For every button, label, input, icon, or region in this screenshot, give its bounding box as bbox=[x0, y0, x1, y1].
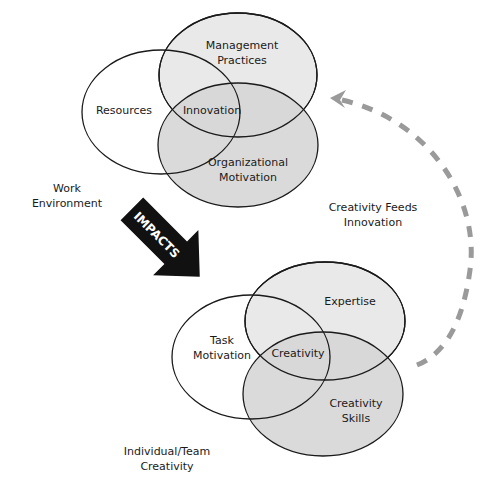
creativity-feeds-text: Creativity Feeds bbox=[329, 200, 418, 215]
innovation-center-label: Innovation bbox=[183, 103, 241, 118]
innovation-text: Innovation bbox=[329, 215, 418, 230]
practices-text: Practices bbox=[206, 53, 278, 68]
organizational-text: Organizational bbox=[208, 155, 288, 170]
environment-text: Environment bbox=[32, 196, 102, 211]
creativity-skills-text-1: Creativity bbox=[329, 396, 382, 411]
management-text: Management bbox=[206, 38, 278, 53]
motivation-text: Motivation bbox=[208, 170, 288, 185]
creativity-feeds-innovation-label: Creativity Feeds Innovation bbox=[329, 200, 418, 230]
resources-text: Resources bbox=[96, 103, 152, 118]
creativity-skills-label: Creativity Skills bbox=[329, 396, 382, 426]
task-text: Task bbox=[193, 333, 251, 348]
diagram-canvas: IMPACTS bbox=[0, 0, 488, 492]
task-motivation-text: Motivation bbox=[193, 348, 251, 363]
individual-team-text: Individual/Team bbox=[124, 444, 210, 459]
organizational-motivation-circle bbox=[158, 83, 318, 207]
work-environment-label: Work Environment bbox=[32, 181, 102, 211]
individual-team-creativity-label: Individual/Team Creativity bbox=[124, 444, 210, 474]
creativity-center-label: Creativity bbox=[271, 346, 324, 361]
creativity-skills-text-2: Skills bbox=[329, 411, 382, 426]
expertise-label: Expertise bbox=[324, 294, 376, 309]
work-text: Work bbox=[32, 181, 102, 196]
creativity-group-text: Creativity bbox=[124, 459, 210, 474]
organizational-motivation-label: Organizational Motivation bbox=[208, 155, 288, 185]
expertise-text: Expertise bbox=[324, 294, 376, 309]
resources-label: Resources bbox=[96, 103, 152, 118]
impacts-arrow: IMPACTS bbox=[109, 186, 222, 299]
management-practices-label: Management Practices bbox=[206, 38, 278, 68]
task-motivation-label: Task Motivation bbox=[193, 333, 251, 363]
